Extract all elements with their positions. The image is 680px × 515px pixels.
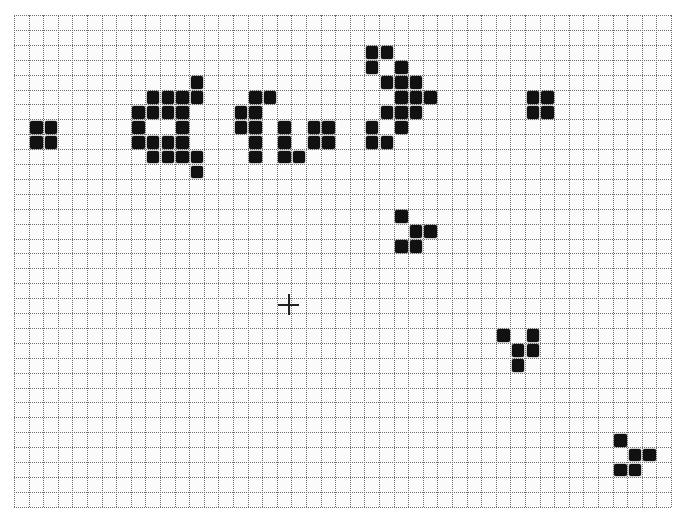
live-cell-gun-left-part[interactable] [132,121,145,134]
live-cell-glider-3[interactable] [614,464,627,477]
live-cell-gun-right-part[interactable] [381,136,394,149]
grid-line-horizontal [14,492,671,493]
live-cell-glider-1[interactable] [424,225,437,238]
live-cell-gun-left-part[interactable] [176,151,189,164]
live-cell-gun-right-part[interactable] [366,121,379,134]
live-cell-gun-middle-part[interactable] [278,121,291,134]
grid-line-horizontal [14,253,671,254]
live-cell-gun-left-part[interactable] [191,76,204,89]
live-cell-glider-3[interactable] [643,449,656,462]
live-cell-gun-right-part[interactable] [410,76,423,89]
live-cell-gun-left-part[interactable] [132,136,145,149]
live-cell-gun-right-part[interactable] [366,61,379,74]
live-cell-gun-right-part[interactable] [366,136,379,149]
live-cell-gun-left-part[interactable] [176,136,189,149]
live-cell-glider-1[interactable] [410,225,423,238]
live-cell-gun-middle-part[interactable] [293,151,306,164]
grid-line-horizontal [14,149,671,150]
live-cell-gun-middle-part[interactable] [278,151,291,164]
live-cell-gun-right-part[interactable] [395,91,408,104]
grid-line-horizontal [14,15,671,16]
live-cell-gun-left-part[interactable] [162,136,175,149]
live-cell-gun-right-part[interactable] [366,46,379,59]
live-cell-gun-middle-part[interactable] [264,91,277,104]
live-cell-gun-right-part[interactable] [381,106,394,119]
live-cell-glider-3[interactable] [629,464,642,477]
live-cell-block-left[interactable] [45,136,58,149]
live-cell-glider-1[interactable] [395,240,408,253]
live-cell-gun-left-part[interactable] [132,106,145,119]
grid-line-horizontal [14,60,671,61]
live-cell-gun-right-part[interactable] [424,91,437,104]
live-cell-gun-left-part[interactable] [147,91,160,104]
live-cell-gun-left-part[interactable] [176,91,189,104]
grid-line-horizontal [14,134,671,135]
live-cell-block-right[interactable] [541,106,554,119]
live-cell-block-right[interactable] [527,106,540,119]
live-cell-block-left[interactable] [45,121,58,134]
grid-line-horizontal [14,313,671,314]
grid-line-horizontal [14,179,671,180]
live-cell-glider-2[interactable] [527,344,540,357]
grid-line-horizontal [14,402,671,403]
live-cell-block-right[interactable] [527,91,540,104]
grid-line-horizontal [14,283,671,284]
live-cell-glider-1[interactable] [410,240,423,253]
live-cell-gun-left-part[interactable] [191,151,204,164]
live-cell-gun-middle-part[interactable] [278,136,291,149]
live-cell-gun-middle-part[interactable] [249,121,262,134]
live-cell-glider-2[interactable] [527,329,540,342]
live-cell-glider-3[interactable] [629,449,642,462]
live-cell-gun-middle-part[interactable] [322,136,335,149]
grid-line-horizontal [14,104,671,105]
live-cell-gun-left-part[interactable] [147,106,160,119]
live-cell-gun-middle-part[interactable] [249,106,262,119]
live-cell-block-right[interactable] [541,91,554,104]
live-cell-gun-right-part[interactable] [381,76,394,89]
grid-line-horizontal [14,328,671,329]
live-cell-glider-1[interactable] [395,210,408,223]
life-grid-board[interactable] [14,15,671,507]
live-cell-gun-left-part[interactable] [176,106,189,119]
live-cell-gun-left-part[interactable] [191,166,204,179]
grid-line-horizontal [14,462,671,463]
live-cell-gun-left-part[interactable] [162,151,175,164]
grid-line-horizontal [14,90,671,91]
live-cell-gun-middle-part[interactable] [249,91,262,104]
live-cell-gun-left-part[interactable] [147,136,160,149]
live-cell-block-left[interactable] [30,121,43,134]
live-cell-gun-middle-part[interactable] [249,136,262,149]
grid-line-vertical [671,15,672,507]
live-cell-gun-right-part[interactable] [395,106,408,119]
live-cell-gun-left-part[interactable] [191,91,204,104]
live-cell-gun-left-part[interactable] [162,106,175,119]
live-cell-gun-left-part[interactable] [176,121,189,134]
live-cell-gun-middle-part[interactable] [249,151,262,164]
live-cell-glider-2[interactable] [512,359,525,372]
live-cell-gun-middle-part[interactable] [308,136,321,149]
grid-line-horizontal [14,373,671,374]
live-cell-gun-right-part[interactable] [395,76,408,89]
grid-line-horizontal [14,432,671,433]
live-cell-glider-3[interactable] [614,434,627,447]
live-cell-glider-2[interactable] [512,344,525,357]
live-cell-gun-right-part[interactable] [395,121,408,134]
live-cell-gun-left-part[interactable] [147,151,160,164]
grid-line-horizontal [14,477,671,478]
live-cell-gun-middle-part[interactable] [308,121,321,134]
live-cell-gun-middle-part[interactable] [322,121,335,134]
live-cell-gun-right-part[interactable] [410,91,423,104]
live-cell-block-left[interactable] [30,136,43,149]
grid-line-horizontal [14,45,671,46]
live-cell-gun-right-part[interactable] [410,106,423,119]
live-cell-glider-2[interactable] [497,329,510,342]
live-cell-gun-right-part[interactable] [381,46,394,59]
grid-line-horizontal [14,417,671,418]
live-cell-gun-middle-part[interactable] [235,121,248,134]
live-cell-gun-middle-part[interactable] [235,106,248,119]
grid-line-horizontal [14,239,671,240]
grid-line-horizontal [14,343,671,344]
grid-line-horizontal [14,194,671,195]
live-cell-gun-right-part[interactable] [395,61,408,74]
live-cell-gun-left-part[interactable] [162,91,175,104]
